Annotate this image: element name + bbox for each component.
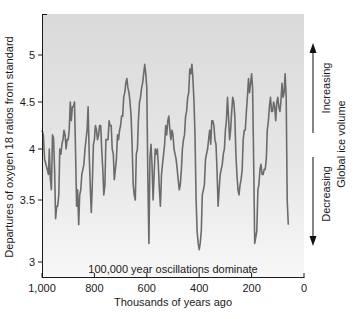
y-tick-label: 5	[29, 49, 35, 61]
oscillation-annotation: 100,000 year oscillations dominate	[88, 263, 257, 275]
x-tick-label: 800	[85, 282, 103, 294]
arrow-up-icon	[310, 43, 317, 53]
x-tick-label: 200	[242, 282, 260, 294]
ice-volume-indicator: Increasing Decreasing Global ice volume	[310, 43, 348, 246]
y-tick-label: 3	[29, 256, 35, 268]
x-tick-label: 0	[301, 282, 307, 294]
x-tick-label: 400	[190, 282, 208, 294]
x-axis-title: Thousands of years ago	[114, 296, 232, 308]
global-ice-volume-label: Global ice volume	[335, 100, 347, 187]
arrow-down-icon	[310, 236, 317, 246]
increasing-label: Increasing	[320, 63, 332, 114]
y-tick-label: 4.5	[20, 96, 35, 108]
y-tick-label: 3.5	[20, 194, 35, 206]
decreasing-label: Decreasing	[320, 166, 332, 222]
x-tick-label: 600	[138, 282, 156, 294]
y-axis-ticks: 33.544.55	[20, 49, 43, 268]
y-tick-label: 4	[29, 143, 35, 155]
chart: 1,0008006004002000 33.544.55 Thousands o…	[0, 0, 353, 319]
x-tick-label: 1,000	[28, 282, 56, 294]
y-axis-title: Departures of oxygen 18 ratios from stan…	[3, 36, 15, 257]
